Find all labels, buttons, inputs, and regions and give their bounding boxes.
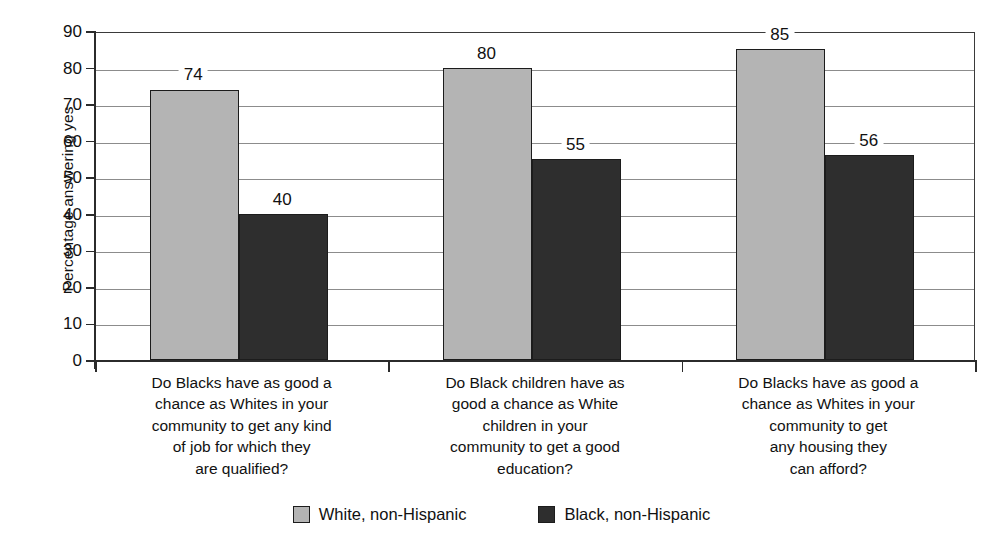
- y-axis-tick-label: 90: [2, 22, 82, 42]
- legend-label-white: White, non-Hispanic: [319, 505, 467, 524]
- y-axis-tick-mark: [86, 214, 95, 216]
- y-axis-tick-mark: [86, 104, 95, 106]
- y-axis-tick-label: 50: [2, 168, 82, 188]
- x-axis-tick-mark: [682, 361, 684, 372]
- y-axis-tick-mark: [86, 68, 95, 70]
- y-axis-tick-mark: [86, 31, 95, 33]
- bar-value-label: 55: [561, 136, 590, 153]
- category-label-line: community to get a good: [388, 436, 681, 457]
- y-axis-tick-mark: [86, 360, 95, 362]
- legend-label-black: Black, non-Hispanic: [564, 505, 710, 524]
- y-axis-tick-label: 10: [2, 314, 82, 334]
- category-label-line: good a chance as White: [388, 393, 681, 414]
- category-label-line: chance as Whites in your: [95, 393, 388, 414]
- bar-value-label: 74: [179, 66, 208, 83]
- bar-value-label: 56: [854, 132, 883, 149]
- legend-swatch-icon-light: [293, 506, 310, 523]
- chart-legend: White, non-Hispanic Black, non-Hispanic: [0, 505, 1003, 524]
- category-label-3: Do Blacks have as good achance as Whites…: [682, 372, 975, 479]
- y-axis-tick-label: 60: [2, 132, 82, 152]
- bar-chart: Percentage answering yes 010203040506070…: [0, 0, 1003, 553]
- legend-item-black-non-hispanic: Black, non-Hispanic: [538, 505, 710, 524]
- y-axis-tick-mark: [86, 324, 95, 326]
- category-label-line: Do Blacks have as good a: [95, 372, 388, 393]
- category-label-line: chance as Whites in your: [682, 393, 975, 414]
- y-axis-tick-label: 30: [2, 241, 82, 261]
- bar-value-label: 80: [472, 45, 501, 62]
- bar-value-label: 40: [268, 191, 297, 208]
- x-axis-category-labels: Do Blacks have as good achance as Whites…: [95, 372, 975, 492]
- bar-white-group2: [443, 68, 532, 360]
- bar-white-group1: [150, 90, 239, 361]
- y-axis-tick-label: 40: [2, 205, 82, 225]
- bar-value-label: 85: [765, 26, 794, 43]
- category-label-line: are qualified?: [95, 458, 388, 479]
- category-label-1: Do Blacks have as good achance as Whites…: [95, 372, 388, 479]
- y-axis-tick-label: 70: [2, 95, 82, 115]
- y-axis-tick-mark: [86, 287, 95, 289]
- plot-area: [95, 32, 975, 361]
- legend-item-white-non-hispanic: White, non-Hispanic: [293, 505, 467, 524]
- x-axis-tick-mark: [388, 361, 390, 372]
- y-axis-tick-mark: [86, 251, 95, 253]
- y-axis-tick-mark: [86, 141, 95, 143]
- category-label-2: Do Black children have asgood a chance a…: [388, 372, 681, 479]
- x-axis-line: [95, 360, 977, 362]
- bar-black-group2: [532, 159, 621, 360]
- bar-white-group3: [736, 49, 825, 360]
- category-label-line: community to get: [682, 415, 975, 436]
- legend-swatch-icon-dark: [538, 506, 555, 523]
- category-label-line: any housing they: [682, 436, 975, 457]
- y-axis-tick-label: 0: [2, 351, 82, 371]
- category-label-line: Do Blacks have as good a: [682, 372, 975, 393]
- bar-black-group3: [825, 155, 914, 360]
- x-axis-tick-mark: [95, 361, 97, 372]
- category-label-line: of job for which they: [95, 436, 388, 457]
- category-label-line: Do Black children have as: [388, 372, 681, 393]
- category-label-line: education?: [388, 458, 681, 479]
- y-axis-line: [94, 31, 96, 369]
- y-axis-tick-label: 80: [2, 59, 82, 79]
- y-axis-tick-labels: 0102030405060708090: [0, 0, 82, 553]
- category-label-line: can afford?: [682, 458, 975, 479]
- y-axis-tick-mark: [86, 177, 95, 179]
- category-label-line: children in your: [388, 415, 681, 436]
- gridline: [96, 70, 974, 71]
- x-axis-tick-mark: [975, 361, 977, 372]
- y-axis-tick-label: 20: [2, 278, 82, 298]
- bar-black-group1: [239, 214, 328, 360]
- category-label-line: community to get any kind: [95, 415, 388, 436]
